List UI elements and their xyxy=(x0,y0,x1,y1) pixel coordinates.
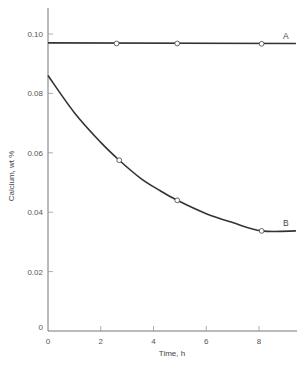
data-point-marker xyxy=(114,41,119,46)
data-point-marker xyxy=(259,229,264,234)
axes xyxy=(48,8,297,331)
y-tick-label: 0.06 xyxy=(27,149,43,158)
series-a-label: A xyxy=(283,31,289,41)
series-b-line xyxy=(48,76,296,232)
series-a-line xyxy=(48,43,296,44)
y-tick-label: 0.02 xyxy=(27,268,43,277)
series-group: AB xyxy=(48,31,296,234)
data-point-marker xyxy=(175,198,180,203)
data-point-marker xyxy=(259,41,264,46)
x-tick-label: 8 xyxy=(257,337,262,346)
series-b-label: B xyxy=(283,218,289,228)
y-tick-label: 0.10 xyxy=(27,30,43,39)
axis-ticks: 0246800.020.040.060.080.10 xyxy=(27,30,261,346)
data-point-marker xyxy=(117,158,122,163)
y-axis-title: Calcium, wt % xyxy=(7,151,16,202)
x-tick-label: 2 xyxy=(99,337,104,346)
y-tick-label: 0.04 xyxy=(27,208,43,217)
y-tick-label: 0.08 xyxy=(27,89,43,98)
x-tick-label: 6 xyxy=(204,337,209,346)
data-point-marker xyxy=(175,41,180,46)
x-tick-label: 4 xyxy=(151,337,156,346)
x-tick-label: 0 xyxy=(46,337,51,346)
x-axis-title: Time, h xyxy=(159,349,185,358)
calcium-time-chart: 0246800.020.040.060.080.10 AB Time, h Ca… xyxy=(0,0,305,368)
y-tick-label: 0 xyxy=(39,323,44,332)
